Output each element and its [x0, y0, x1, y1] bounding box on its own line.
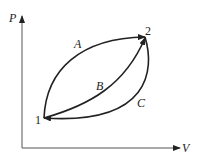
path-c-label: C [137, 97, 145, 109]
path-a-label: A [74, 38, 81, 50]
y-axis-label: P [9, 12, 16, 24]
x-axis-label: V [182, 142, 189, 154]
point-1-label: 1 [35, 114, 41, 126]
path-c [44, 37, 149, 119]
path-b [44, 38, 145, 118]
path-a [44, 37, 145, 118]
pv-diagram: P V 1 2 A B C [0, 0, 198, 160]
path-b-label: B [96, 80, 103, 92]
point-2-label: 2 [145, 25, 151, 37]
